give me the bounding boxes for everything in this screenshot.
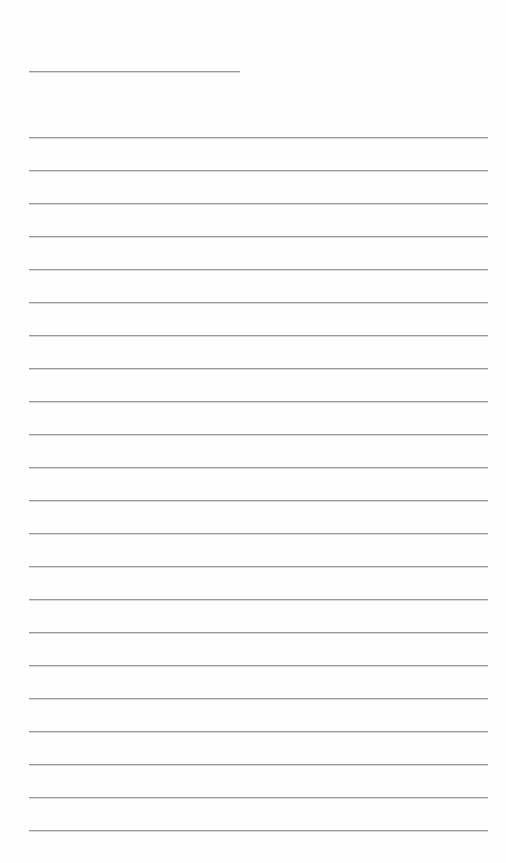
ruled-line [29,698,488,699]
lined-paper-page [0,0,506,863]
ruled-line [29,302,488,303]
ruled-line [29,269,488,270]
ruled-line [29,632,488,633]
ruled-line [29,467,488,468]
ruled-line [29,599,488,600]
ruled-line [29,830,488,831]
ruled-lines [0,0,506,863]
ruled-line [29,566,488,567]
ruled-line [29,137,488,138]
ruled-line [29,170,488,171]
ruled-line [29,335,488,336]
ruled-line [29,533,488,534]
ruled-line [29,203,488,204]
ruled-line [29,401,488,402]
ruled-line [29,665,488,666]
ruled-line [29,368,488,369]
ruled-line [29,797,488,798]
ruled-line [29,434,488,435]
ruled-line [29,764,488,765]
ruled-line [29,236,488,237]
ruled-line [29,500,488,501]
ruled-line [29,731,488,732]
